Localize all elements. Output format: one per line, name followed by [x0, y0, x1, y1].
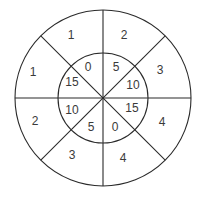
- inner-segment-label-ene: 10: [126, 78, 140, 92]
- outer-segment-label-ese: 4: [159, 115, 166, 129]
- outer-segment-label-nnw: 1: [68, 28, 75, 42]
- inner-segment-label-wsw: 10: [65, 103, 79, 117]
- outer-segment-label-wsw: 2: [32, 114, 39, 128]
- inner-segment-label-ssw: 5: [88, 120, 95, 134]
- inner-segment-label-wnw: 15: [65, 75, 79, 89]
- outer-segment-label-ene: 3: [157, 63, 164, 77]
- dividers: [15, 10, 191, 186]
- outer-segment-label-nne: 2: [121, 28, 128, 42]
- inner-segment-label-nnw: 0: [85, 60, 92, 74]
- inner-segment-label-nne: 5: [113, 60, 120, 74]
- outer-segment-label-wnw: 1: [30, 65, 37, 79]
- segmented-circle-diagram: 12344321 051015051015: [0, 0, 203, 197]
- inner-segment-label-sse: 0: [112, 120, 119, 134]
- outer-segment-label-ssw: 3: [69, 148, 76, 162]
- outer-ring-labels: 12344321: [30, 28, 166, 165]
- inner-segment-label-ese: 15: [125, 101, 139, 115]
- outer-segment-label-sse: 4: [120, 151, 127, 165]
